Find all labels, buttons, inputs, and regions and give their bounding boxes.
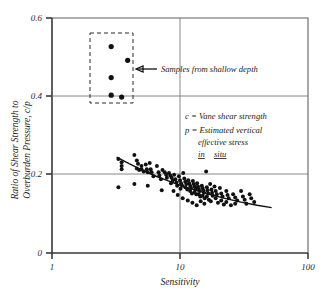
data-point [243,198,247,202]
key-line-situ: situ [214,149,226,159]
data-point [157,173,161,177]
key-line-in: in [198,149,205,159]
data-point [119,95,124,100]
data-point [172,173,176,177]
data-point [136,162,140,166]
shallow-depth-box [90,33,133,103]
data-point [151,174,155,178]
xtick-label-1: 1 [50,262,55,272]
data-point [249,196,253,200]
data-point [224,189,228,193]
data-point [252,200,256,204]
data-point [177,174,181,178]
xtick-label-10: 10 [176,262,186,272]
data-point [227,196,231,200]
data-point [221,195,225,199]
data-point [181,171,185,175]
data-point [172,189,176,193]
data-point [190,201,194,205]
ytick-label-04: 0.4 [31,91,43,101]
data-point [165,176,169,180]
data-point [216,201,220,205]
data-point [215,192,219,196]
data-point [224,200,228,204]
data-point [176,193,180,197]
data-point [155,164,159,168]
data-point [239,189,243,193]
data-point [214,196,218,200]
key-line-c: c = Vane shear strength [185,111,267,121]
shallow-depth-callout: Samples from shallow depth [136,64,258,74]
data-point [132,153,136,157]
ytick-label-06: 0.6 [31,13,43,23]
y-axis-title-line2: Overburden Pressure, c/p [22,101,32,199]
series-main [116,153,256,207]
data-point [116,185,120,189]
data-point [132,182,136,186]
data-point [109,44,114,49]
data-point [109,75,114,80]
data-point [109,93,114,98]
data-point [175,184,179,188]
data-point [209,199,213,203]
data-point [248,192,252,196]
y-tick-marks [46,18,52,253]
key-line-p2: effective stress [198,137,249,147]
callout-label: Samples from shallow depth [161,64,258,74]
data-point [146,184,150,188]
data-point [148,161,152,165]
data-point [181,196,185,200]
x-tick-marks [52,253,308,259]
key-line-p: p = Estimated vertical [184,125,263,135]
data-point [213,184,217,188]
data-point [159,177,163,181]
xtick-label-100: 100 [301,262,315,272]
data-point [144,162,148,166]
data-point [120,167,124,171]
data-point [146,170,150,174]
data-point [202,202,206,206]
data-point [120,160,124,164]
data-point [229,203,233,207]
x-axis-title: Sensitivity [160,277,200,287]
data-point [125,58,130,63]
data-point [199,199,203,203]
data-point [233,202,237,206]
data-point [204,170,208,174]
data-point [219,199,223,203]
ytick-label-0: 0 [38,248,43,258]
data-point [186,199,190,203]
y-axis-title-line1: Ratio of Shear Strength to [10,100,20,200]
symbol-key: c = Vane shear strength p = Estimated ve… [184,111,267,159]
data-point [195,203,199,207]
data-point [150,170,154,174]
chart-figure: 0.6 0.4 0.2 0 1 10 100 Ratio of Shear St… [0,0,327,293]
data-point [116,157,120,161]
scatter-plot-svg: 0.6 0.4 0.2 0 1 10 100 Ratio of Shear St… [0,0,327,293]
data-point [244,202,248,206]
data-point [160,188,164,192]
data-point [179,187,183,191]
series-shallow-depth [109,44,131,100]
data-point [208,182,212,186]
data-point [218,186,222,190]
ytick-label-02: 0.2 [31,169,43,179]
